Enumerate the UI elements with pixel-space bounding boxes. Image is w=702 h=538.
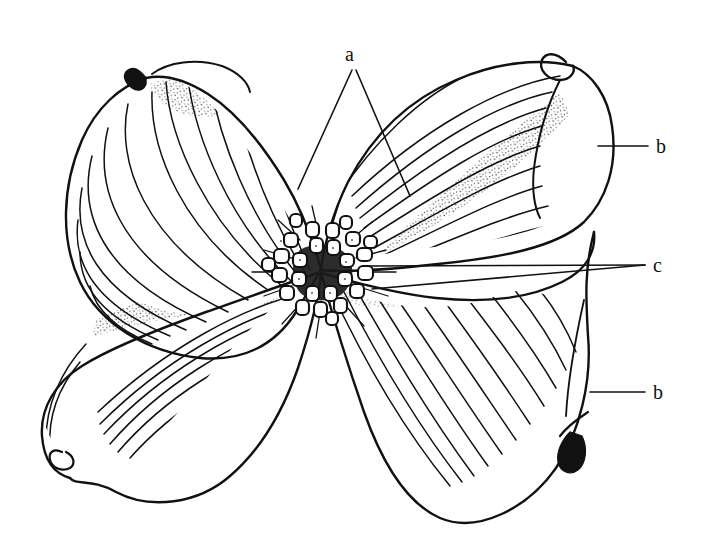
label-b-top: b [656,136,666,156]
label-a: a [345,44,354,64]
dogwood-illustration [0,0,702,538]
label-c: c [653,255,662,275]
leader-c-upper [368,265,645,266]
label-b-bottom: b [653,382,663,402]
figure-canvas: a b b c [0,0,702,538]
